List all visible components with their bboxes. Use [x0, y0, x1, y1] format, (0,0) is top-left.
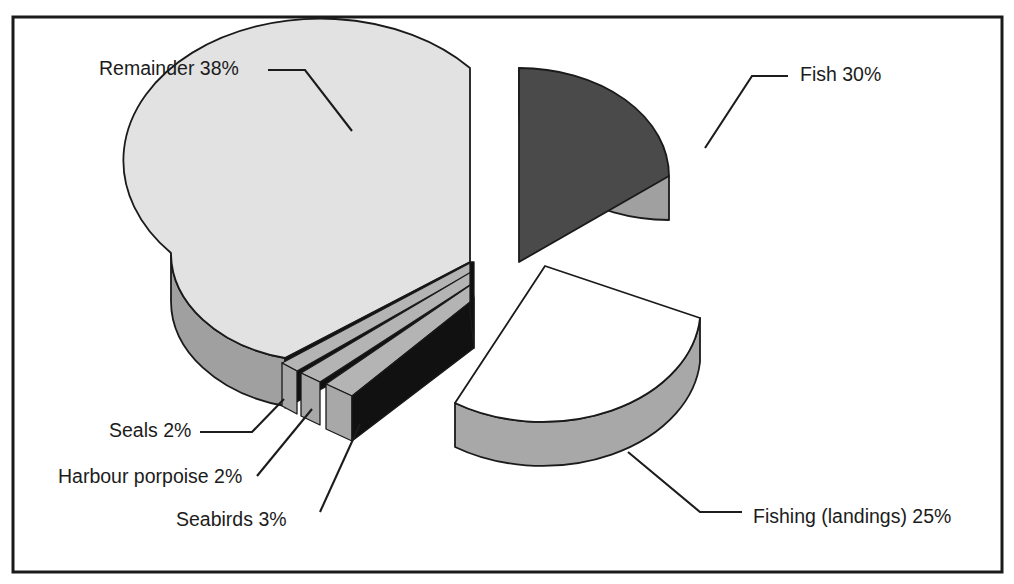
label-fishing-landings: Fishing (landings) 25% [753, 505, 951, 527]
harbour-porpoise-slice-side [301, 373, 320, 425]
seals-slice-side [282, 363, 297, 414]
label-seabirds: Seabirds 3% [176, 508, 287, 530]
fishing-leader-line [628, 452, 742, 512]
label-remainder: Remainder 38% [99, 57, 239, 79]
left-pie-group [123, 19, 474, 441]
label-harbour-porpoise: Harbour porpoise 2% [58, 465, 242, 487]
fish-slice-top [519, 68, 669, 262]
seabirds-leader-line [320, 424, 360, 512]
fish-leader-line [705, 76, 788, 148]
pie-chart-svg: Remainder 38% Fish 30% Seals 2% Harbour … [0, 0, 1014, 584]
label-fish: Fish 30% [800, 63, 881, 85]
pie-chart-figure: Remainder 38% Fish 30% Seals 2% Harbour … [0, 0, 1014, 584]
label-seals: Seals 2% [109, 419, 191, 441]
fish-slice-group [519, 68, 669, 262]
fishing-slice-group [455, 266, 700, 466]
